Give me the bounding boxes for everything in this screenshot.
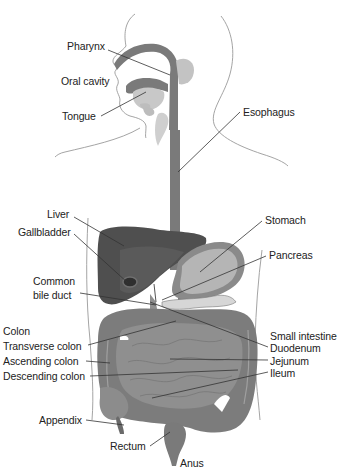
label-duodenum: Duodenum (270, 342, 321, 354)
label-pharynx: Pharynx (67, 40, 105, 52)
label-tongue: Tongue (62, 110, 96, 122)
label-gallbladder: Gallbladder (18, 226, 71, 238)
label-common-bile-duct-line1: Common (33, 275, 75, 287)
label-esophagus: Esophagus (243, 106, 295, 118)
label-stomach: Stomach (265, 214, 306, 226)
label-transverse-colon: Transverse colon (3, 340, 82, 352)
label-ascending-colon: Ascending colon (3, 355, 79, 367)
label-jejunum: Jejunum (270, 355, 309, 367)
label-descending-colon: Descending colon (3, 370, 85, 382)
label-anus: Anus (180, 457, 204, 469)
upper-tract (114, 44, 194, 146)
label-small-intestine: Small intestine (270, 330, 337, 342)
label-colon: Colon (3, 325, 30, 337)
digestive-system-diagram: Pharynx Oral cavity Tongue Esophagus Liv… (0, 0, 345, 471)
label-pancreas: Pancreas (269, 249, 313, 261)
label-common-bile-duct-line2: bile duct (33, 289, 71, 301)
label-oral-cavity: Oral cavity (61, 75, 110, 87)
label-ileum: Ileum (270, 367, 295, 379)
gallbladder-shape (123, 277, 137, 287)
label-rectum: Rectum (110, 440, 146, 452)
label-liver: Liver (47, 208, 69, 220)
label-appendix: Appendix (39, 414, 82, 426)
